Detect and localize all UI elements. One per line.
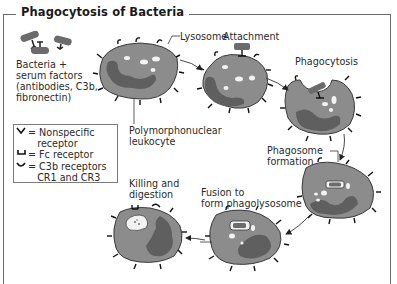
- legend-fc: = Fc receptor: [28, 149, 93, 160]
- killing-label: Killing and digestion: [129, 178, 179, 200]
- phagocytosis-cell: [280, 76, 361, 141]
- lysosome-label: Lysosome: [180, 31, 227, 42]
- attachment-label: Attachment: [223, 31, 279, 42]
- receptor-legend: = Nonspecific receptor = Fc receptor = C…: [13, 124, 118, 183]
- phagosome-label: Phagosome formation: [267, 145, 323, 167]
- pmn-cell: [93, 38, 184, 105]
- fusion-label: Fusion to form phagolysosome: [201, 187, 302, 209]
- phagolysosome-cell: [205, 206, 289, 271]
- attachment-cell: [197, 43, 273, 113]
- legend-c3b: = C3b receptors CR1 and CR3: [28, 161, 107, 183]
- pmn-label: Polymorphonuclear leukocyte: [129, 125, 222, 147]
- killing-cell: [107, 204, 187, 269]
- bacteria-icon: [20, 30, 73, 54]
- bacteria-label: Bacteria + serum factors (antibodies, C3…: [16, 59, 98, 103]
- legend-nonspecific: = Nonspecific receptor: [28, 127, 94, 149]
- phagosome-cell: [297, 158, 381, 224]
- phagocytosis-label: Phagocytosis: [295, 56, 358, 67]
